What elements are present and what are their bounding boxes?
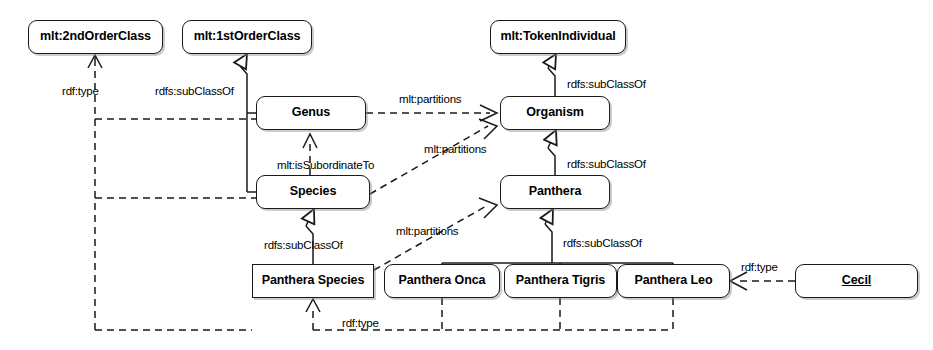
node-species[interactable]: Species: [256, 175, 370, 209]
node-panthera-onca[interactable]: Panthera Onca: [384, 264, 500, 298]
edge-label-partitions-panthera: mlt:partitions: [396, 226, 458, 238]
node-cecil[interactable]: Cecil: [795, 264, 918, 298]
edge-subclassof-pantheraspecies: [306, 209, 314, 264]
edge-label-partitions-species: mlt:partitions: [424, 144, 486, 156]
node-label: Panthera Onca: [395, 274, 490, 288]
node-mlt-1st-order-class[interactable]: mlt:1stOrderClass: [182, 20, 312, 54]
rdftype-bottom-arrowhead: [306, 299, 320, 312]
edge-label-partitions-genus: mlt:partitions: [399, 94, 461, 106]
edge-label-is-subordinate-to: mlt:isSubordinateTo: [277, 160, 374, 172]
node-label: Cecil: [838, 274, 875, 288]
edge-label-subclassof-first-order: rdfs:subClassOf: [155, 86, 234, 98]
node-panthera-species[interactable]: Panthera Species: [252, 264, 374, 298]
edge-subclassof-panthera-organism: [548, 130, 556, 175]
node-label: mlt:1stOrderClass: [190, 30, 305, 44]
edge-label-rdftype-bottom: rdf:type: [342, 318, 379, 330]
edge-label-subclassof-panthera-species: rdfs:subClassOf: [264, 240, 343, 252]
edge-subclassof-firstorder: [240, 54, 256, 192]
edge-partitions-genus-organism: [366, 105, 497, 121]
node-panthera-leo[interactable]: Panthera Leo: [617, 264, 730, 298]
edge-label-subclassof-organism: rdfs:subClassOf: [567, 159, 646, 171]
node-label: mlt:2ndOrderClass: [36, 30, 155, 44]
node-label: mlt:TokenIndividual: [496, 30, 619, 44]
edge-label-rdftype-cecil: rdf:type: [741, 262, 778, 274]
node-organism[interactable]: Organism: [500, 96, 610, 130]
node-panthera[interactable]: Panthera: [500, 175, 610, 209]
node-label: Panthera: [525, 185, 586, 199]
edge-label-subclassof-panthera: rdfs:subClassOf: [563, 238, 642, 250]
edge-rdftype-rail: [95, 62, 256, 330]
edge-label-subclassof-token-individual: rdfs:subClassOf: [567, 79, 646, 91]
node-label: Panthera Species: [258, 274, 369, 288]
node-panthera-tigris[interactable]: Panthera Tigris: [504, 264, 617, 298]
node-mlt-2nd-order-class[interactable]: mlt:2ndOrderClass: [28, 20, 163, 54]
node-genus[interactable]: Genus: [256, 96, 366, 130]
node-label: Panthera Leo: [631, 274, 717, 288]
edge-rdftype-cecil: [730, 272, 795, 290]
edge-partitions-species-organism: [370, 119, 497, 194]
node-label: Panthera Tigris: [512, 274, 609, 288]
node-label: Genus: [288, 106, 334, 120]
diagram-canvas: mlt:2ndOrderClass mlt:1stOrderClass mlt:…: [0, 0, 933, 350]
node-label: Organism: [522, 106, 588, 120]
edge-subclassof-organism-token: [548, 54, 556, 96]
node-mlt-token-individual[interactable]: mlt:TokenIndividual: [490, 20, 626, 54]
edge-label-rdftype-left: rdf:type: [62, 86, 99, 98]
node-label: Species: [286, 185, 341, 199]
